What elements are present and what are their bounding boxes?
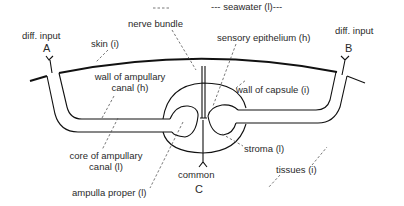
leader-sensory-epithelium [213, 44, 236, 106]
nerve-bundle [200, 66, 207, 118]
leader-skin [96, 50, 108, 62]
label-sensory-epithelium: sensory epithelium (h) [217, 32, 310, 43]
label-nerve-bundle: nerve bundle [128, 18, 183, 29]
leader-tissues-bottom [268, 175, 280, 188]
label-tissues: tissues (i) [276, 164, 317, 175]
label-core-ampullary-canal: core of ampullary canal (l) [64, 150, 148, 172]
label-diff-input-b: diff. input [335, 25, 373, 36]
skin-surface-left [30, 76, 47, 81]
ampullary-organ-diagram: --- seawater (l)--- nerve bundle diff. i… [0, 0, 404, 206]
label-stroma: stroma (l) [244, 143, 284, 154]
ampulla-left [170, 106, 198, 137]
label-common: common [178, 169, 214, 180]
label-diff-input-a: diff. input [22, 30, 60, 41]
label-wall-ampullary-canal-line2: canal (h) [88, 82, 172, 93]
label-core-ampullary-canal-line2: canal (l) [64, 161, 148, 172]
electrode-a [46, 56, 53, 73]
label-wall-ampullary-canal: wall of ampullary canal (h) [88, 71, 172, 93]
leader-wall-ampullary-canal [102, 96, 114, 118]
label-skin: skin (i) [91, 38, 119, 49]
leader-nerve-bundle [172, 30, 196, 70]
label-electrode-c: C [195, 184, 203, 195]
leader-core-ampullary-canal [102, 118, 118, 150]
ampulla-right [208, 105, 238, 135]
label-electrode-b: B [345, 43, 352, 54]
leader-tissues-top [312, 147, 327, 165]
electrode-c [199, 120, 207, 167]
label-wall-capsule: wall of capsule (i) [236, 84, 309, 95]
label-core-ampullary-canal-line1: core of ampullary [64, 150, 148, 161]
label-seawater: --- seawater (l)--- [211, 1, 282, 12]
label-electrode-a: A [43, 43, 50, 54]
skin-surface-right [347, 76, 365, 83]
label-ampulla-proper: ampulla proper (l) [72, 187, 146, 198]
label-wall-ampullary-canal-line1: wall of ampullary [88, 71, 172, 82]
electrode-b [341, 56, 349, 75]
